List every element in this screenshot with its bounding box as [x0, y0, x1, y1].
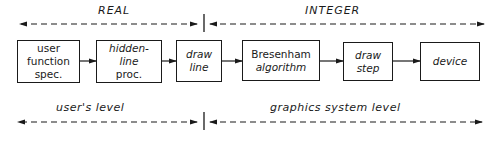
- box-text-line: proc.: [116, 68, 142, 81]
- box-text-line: Bresenham: [251, 48, 311, 61]
- box-text-line: draw: [355, 49, 381, 62]
- box-hidden-line-proc: hidden- line proc.: [96, 40, 162, 83]
- box-user-function-spec: user function spec.: [17, 40, 80, 83]
- box-text-line: function: [27, 55, 70, 68]
- box-text-line: hidden-: [109, 42, 149, 55]
- box-text-line: algorithm: [256, 61, 307, 74]
- graphics-system-level-label: graphics system level: [270, 101, 400, 114]
- box-text-line: draw: [186, 48, 212, 61]
- box-text-line: device: [433, 55, 468, 68]
- box-text-line: user: [37, 42, 60, 55]
- users-level-label: user's level: [56, 101, 124, 114]
- box-text-line: line: [120, 55, 139, 68]
- box-text-line: spec.: [35, 68, 63, 81]
- box-draw-step: draw step: [343, 42, 393, 81]
- integer-label: INTEGER: [305, 4, 360, 17]
- box-draw-line: draw line: [176, 40, 222, 82]
- real-label: REAL: [98, 4, 130, 17]
- box-bresenham-algorithm: Bresenham algorithm: [242, 40, 320, 81]
- box-device: device: [420, 42, 480, 81]
- box-text-line: line: [190, 61, 209, 74]
- box-text-line: step: [357, 62, 380, 75]
